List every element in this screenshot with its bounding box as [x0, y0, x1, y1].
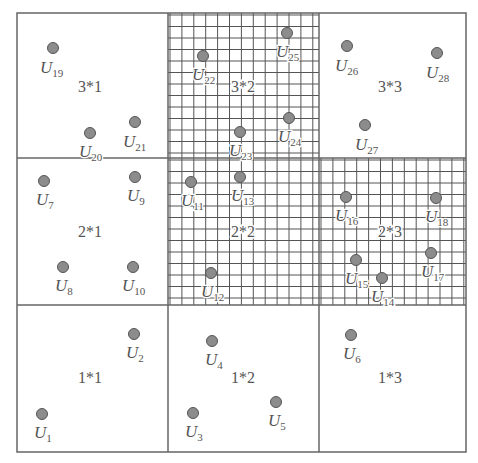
user-label: U13 [231, 186, 255, 207]
user-label: U15 [345, 269, 369, 290]
user-node: U2 [126, 329, 144, 365]
user-label: U21 [123, 132, 146, 153]
user-node: U14 [371, 273, 395, 309]
user-dot-icon [58, 262, 69, 273]
user-dot-icon [48, 43, 59, 54]
user-label: U27 [355, 135, 379, 156]
user-label: U19 [40, 58, 64, 79]
user-dot-icon [341, 192, 352, 203]
user-label: U20 [79, 142, 103, 163]
user-dot-icon [351, 255, 362, 266]
user-dot-icon [129, 329, 140, 340]
user-label: U25 [276, 42, 300, 63]
user-node: U15 [345, 255, 369, 291]
cell-label: 3*2 [231, 78, 255, 95]
user-dot-icon [271, 397, 282, 408]
user-label: U28 [426, 63, 450, 84]
cell-label: 2*2 [231, 223, 255, 240]
user-label: U7 [36, 190, 54, 211]
user-node: U1 [34, 409, 52, 445]
user-dot-icon [284, 113, 295, 124]
user-dot-icon [188, 408, 199, 419]
user-node: U28 [426, 48, 450, 85]
cell-label: 1*3 [378, 369, 402, 386]
user-dot-icon [130, 172, 141, 183]
user-node: U3 [185, 408, 203, 444]
user-label: U10 [122, 276, 146, 297]
user-dot-icon [128, 262, 139, 273]
user-dot-icon [342, 41, 353, 52]
user-dot-icon [37, 409, 48, 420]
user-dot-icon [130, 117, 141, 128]
user-label: U22 [192, 65, 215, 86]
user-node: U13 [231, 172, 255, 208]
partition-diagram: 3*13*23*32*12*22*31*11*21*3 U1U2U3U4U5U6… [0, 0, 478, 463]
user-node: U17 [421, 248, 445, 284]
user-label: U1 [34, 423, 52, 444]
user-label: U6 [343, 344, 361, 365]
user-node: U19 [40, 43, 64, 80]
user-node: U10 [122, 262, 146, 298]
user-node: U7 [36, 176, 54, 212]
cell-label: 1*1 [78, 369, 102, 386]
user-label: U2 [126, 343, 144, 364]
user-node: U25 [276, 28, 300, 64]
user-node: U20 [79, 128, 103, 164]
user-node: U22 [192, 51, 215, 87]
user-dot-icon [198, 51, 209, 62]
user-node: U6 [343, 330, 361, 366]
user-dot-icon [39, 176, 50, 187]
user-node: U27 [355, 120, 379, 157]
user-label: U17 [421, 262, 445, 283]
user-dot-icon [235, 172, 246, 183]
user-dot-icon [360, 120, 371, 131]
cell-label: 2*1 [78, 223, 102, 240]
user-dot-icon [186, 177, 197, 188]
user-dot-icon [207, 336, 218, 347]
user-label: U9 [127, 186, 145, 207]
cell-label: 3*1 [78, 78, 102, 95]
user-node: U16 [335, 192, 359, 228]
user-node: U23 [229, 127, 253, 163]
user-node: U12 [201, 268, 224, 304]
cell-label: 2*3 [378, 223, 402, 240]
user-dot-icon [235, 127, 246, 138]
user-label: U18 [425, 207, 449, 228]
user-node: U4 [205, 336, 223, 372]
user-dot-icon [282, 28, 293, 39]
user-node: U8 [55, 262, 73, 298]
user-dot-icon [346, 330, 357, 341]
user-label: U5 [268, 411, 286, 432]
user-label: U12 [201, 282, 224, 303]
user-dot-icon [206, 268, 217, 279]
user-label: U4 [205, 350, 223, 371]
user-dot-icon [85, 128, 96, 139]
user-dot-icon [377, 273, 388, 284]
user-node: U21 [123, 117, 146, 154]
user-node: U5 [268, 397, 286, 433]
user-node: U9 [127, 172, 145, 208]
user-label: U3 [185, 422, 203, 443]
cell-label: 1*2 [231, 369, 255, 386]
user-dot-icon [431, 193, 442, 204]
user-dot-icon [432, 48, 443, 59]
user-dot-icon [426, 248, 437, 259]
user-label: U14 [371, 287, 395, 308]
user-label: U8 [55, 276, 73, 297]
user-label: U16 [335, 206, 359, 227]
cell-label: 3*3 [378, 78, 402, 95]
user-label: U26 [335, 56, 359, 77]
user-node: U26 [335, 41, 359, 78]
diagram-canvas: 3*13*23*32*12*22*31*11*21*3 U1U2U3U4U5U6… [0, 0, 478, 463]
user-label: U23 [229, 141, 253, 162]
